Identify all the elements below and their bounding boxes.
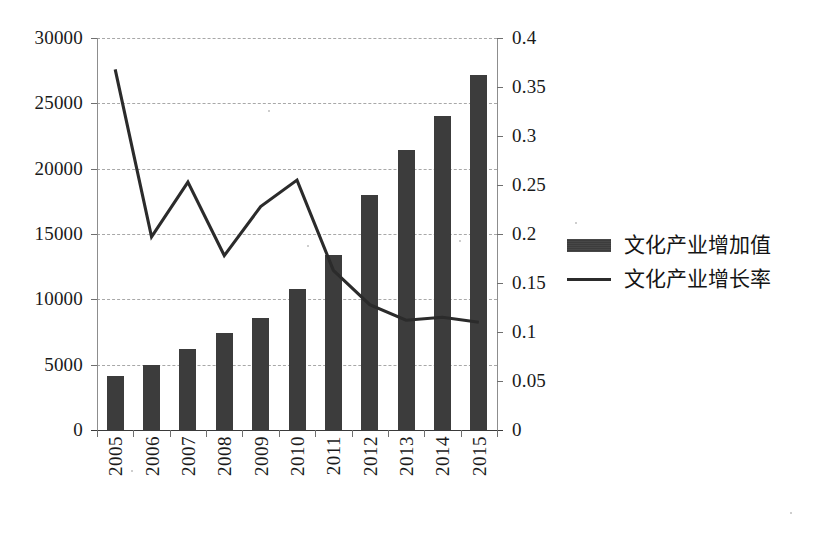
- scan-artifact: [575, 222, 577, 224]
- right-axis-tick: [497, 381, 503, 382]
- right-axis-tick-label: 0.15: [512, 273, 546, 292]
- right-axis-tick: [497, 332, 503, 333]
- left-axis-tick-label: 20000: [35, 159, 84, 178]
- right-axis-tick-label: 0.1: [512, 322, 536, 341]
- scan-artifact: [307, 245, 309, 247]
- legend-item-bar: 文化产业增加值: [566, 228, 811, 262]
- right-axis-tick: [497, 38, 503, 39]
- left-axis-tick-label: 30000: [35, 28, 84, 47]
- right-axis-tick-label: 0.3: [512, 126, 536, 145]
- right-axis-tick-label: 0.35: [512, 77, 546, 96]
- right-axis-tick: [497, 234, 503, 235]
- scan-artifact: [459, 240, 461, 242]
- left-axis-tick-label: 5000: [44, 355, 83, 374]
- left-axis-tick-label: 25000: [35, 93, 84, 112]
- chart-figure: 050001000015000200002500030000 00.050.10…: [0, 0, 817, 533]
- category-axis-line: [91, 430, 503, 431]
- right-axis-tick-label: 0.2: [512, 224, 536, 243]
- category-axis-tick: [497, 430, 498, 437]
- plot-area: [97, 38, 497, 430]
- legend-label-bar: 文化产业增加值: [612, 233, 771, 257]
- left-axis-labels: 050001000015000200002500030000: [0, 38, 83, 430]
- chart-legend: 文化产业增加值 文化产业增长率: [566, 228, 811, 296]
- right-axis-tick-label: 0.25: [512, 175, 546, 194]
- left-axis-tick-label: 0: [73, 420, 83, 439]
- right-axis-tick: [497, 185, 503, 186]
- right-axis-tick: [497, 136, 503, 137]
- right-axis-tick: [497, 283, 503, 284]
- scan-artifact: [268, 110, 270, 112]
- legend-label-line: 文化产业增长率: [612, 267, 771, 291]
- bar-swatch-icon: [566, 228, 612, 262]
- left-axis-tick-label: 15000: [35, 224, 84, 243]
- right-axis-tick-label: 0.4: [512, 28, 536, 47]
- growth-rate-line: [115, 69, 479, 322]
- right-axis-tick-label: 0: [512, 420, 522, 439]
- line-swatch-icon: [566, 262, 612, 296]
- legend-item-line: 文化产业增长率: [566, 262, 811, 296]
- left-axis-tick-label: 10000: [35, 289, 84, 308]
- right-axis-tick: [497, 87, 503, 88]
- scan-artifact: [131, 470, 133, 472]
- right-axis-tick-label: 0.05: [512, 371, 546, 390]
- line-series: [97, 38, 497, 430]
- scan-artifact: [790, 512, 792, 514]
- category-axis-labels: 2005200620072008200920102011201220132014…: [97, 436, 497, 526]
